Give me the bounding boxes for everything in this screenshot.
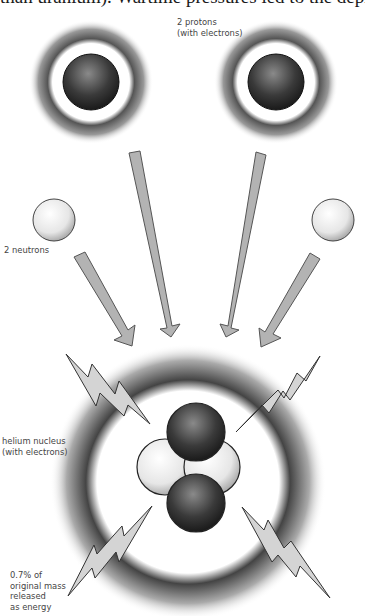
- arrow-proton-2: [220, 152, 266, 337]
- neutron-1: [33, 199, 75, 241]
- nucleus-proton-top: [167, 403, 225, 461]
- label-protons: 2 protons (with electrons): [177, 17, 243, 38]
- fusion-diagram: [0, 0, 365, 616]
- label-energy-released: 0.7% of original mass released as energy: [10, 570, 66, 612]
- proton-2: [214, 20, 338, 144]
- proton-1: [29, 20, 153, 144]
- nucleus-proton-bottom: [167, 474, 225, 532]
- label-neutrons: 2 neutrons: [4, 245, 49, 256]
- label-helium-nucleus: helium nucleus (with electrons): [2, 436, 68, 457]
- arrow-proton-1: [129, 151, 180, 337]
- arrow-neutron-2: [259, 253, 320, 347]
- neutron-2: [312, 199, 354, 241]
- arrow-neutron-1: [74, 252, 135, 346]
